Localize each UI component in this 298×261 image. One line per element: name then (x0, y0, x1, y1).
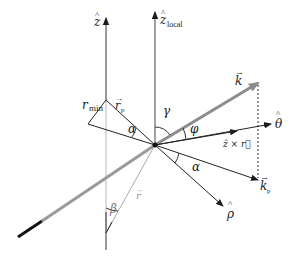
label-r-min: r min (82, 98, 104, 113)
label-rho-hat: ρ ^ (226, 199, 234, 221)
r-min-base-line (88, 124, 155, 145)
k-line-back-dark (18, 221, 42, 237)
svg-text:→: → (136, 186, 143, 194)
vector-diagram: z ^ z ^ local k → θ ^ ẑ × r⃗ k → p ρ ^ r… (0, 0, 298, 261)
origin-point (153, 143, 158, 148)
svg-text:min: min (89, 103, 104, 113)
svg-text:→: → (260, 172, 269, 182)
label-z-cross-r: ẑ × r⃗ (222, 139, 251, 149)
svg-text:r: r (82, 98, 89, 112)
svg-text:local: local (167, 20, 183, 29)
gamma-arc (155, 127, 170, 135)
k-line-back (42, 145, 155, 221)
r-vector (106, 145, 155, 233)
label-gamma: γ (163, 104, 171, 118)
svg-text:→: → (235, 67, 244, 77)
label-r-p: r → p (115, 94, 125, 114)
svg-text:ρ: ρ (226, 207, 234, 221)
phi-arc (183, 128, 186, 140)
label-alpha-upper: α (128, 122, 136, 136)
label-k: k → (235, 67, 244, 88)
svg-text:p: p (121, 106, 125, 114)
svg-text:θ: θ (275, 117, 283, 131)
svg-text:→: → (115, 94, 123, 103)
label-z-local: z ^ local (159, 8, 183, 29)
label-phi: φ (190, 122, 199, 136)
label-alpha-lower: α (192, 160, 200, 174)
svg-text:p: p (267, 187, 271, 195)
label-theta-hat: θ ^ (275, 109, 283, 131)
label-z: z ^ (93, 10, 101, 29)
r-vector-dark-base (106, 222, 112, 233)
label-r: r → (136, 186, 143, 201)
label-beta: β (109, 202, 117, 216)
rho-hat-vector (155, 145, 223, 206)
k-p-vector (155, 145, 258, 180)
alpha-lower-arc (175, 153, 179, 163)
label-k-p: k → p (260, 172, 271, 195)
